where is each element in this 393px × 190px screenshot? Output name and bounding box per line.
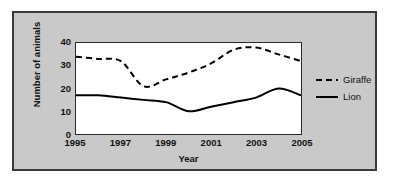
legend-swatch-giraffe-icon: [316, 75, 338, 85]
y-tick-label: 30: [49, 60, 71, 70]
plot-area: [75, 42, 302, 135]
x-tick-label: 1997: [100, 137, 140, 149]
x-tick-label: 2001: [191, 137, 231, 149]
x-tick-label: 1999: [146, 137, 186, 149]
y-axis-title: Number of animals: [31, 15, 42, 115]
x-tick-label: 1995: [55, 137, 95, 149]
x-axis-title: Year: [75, 153, 302, 164]
legend-item-lion[interactable]: Lion: [316, 88, 388, 105]
chart-legend: GiraffeLion: [316, 71, 388, 105]
chart-panel: Number of animals 010203040 199519971999…: [12, 11, 377, 171]
chart-screenshot: Number of animals 010203040 199519971999…: [0, 0, 393, 190]
x-tick-label: 2003: [237, 137, 277, 149]
legend-label: Giraffe: [343, 74, 371, 85]
x-tick-label: 2005: [282, 137, 322, 149]
plot-lines: [76, 43, 301, 134]
y-tick-label: 40: [49, 37, 71, 47]
y-axis-ticks: 010203040: [47, 37, 71, 141]
y-tick-label: 10: [49, 107, 71, 117]
series-line-lion: [76, 88, 301, 111]
legend-label: Lion: [343, 91, 361, 102]
x-axis-ticks: 199519971999200120032005: [75, 137, 302, 151]
y-tick-label: 20: [49, 84, 71, 94]
legend-item-giraffe[interactable]: Giraffe: [316, 71, 388, 88]
series-line-giraffe: [76, 47, 301, 87]
legend-swatch-lion-icon: [316, 92, 338, 102]
